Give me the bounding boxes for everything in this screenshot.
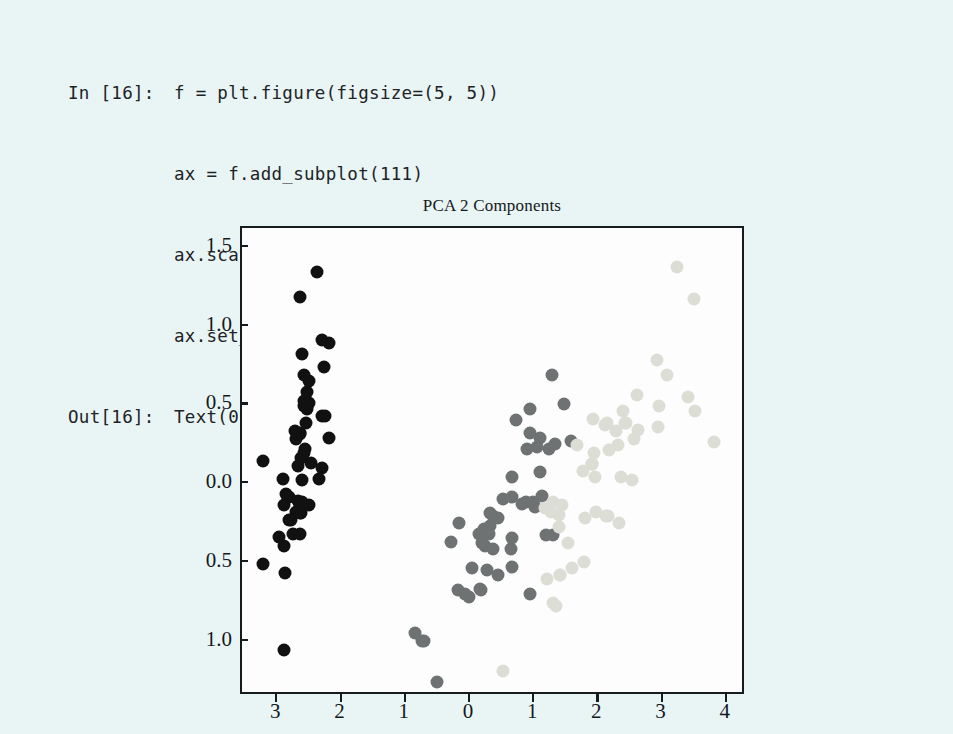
x-axis-tick-label: 4 — [700, 699, 750, 724]
scatter-point — [483, 507, 496, 520]
code-line-3: ax.scatter(X_pca[:,0], X_pca[:, 1], c=ir… — [68, 242, 716, 269]
scatter-point — [272, 530, 285, 543]
scatter-point — [472, 527, 485, 540]
scatter-point — [566, 562, 579, 575]
scatter-point — [578, 556, 591, 569]
scatter-point — [293, 507, 306, 520]
scatter-point — [292, 494, 305, 507]
x-axis-tick-label: 2 — [315, 699, 365, 724]
out-prompt: Out[16]: — [68, 404, 174, 431]
scatter-point — [475, 584, 488, 597]
scatter-point — [295, 507, 308, 520]
code-line-2: ax = f.add_subplot(111) — [68, 161, 716, 188]
scatter-point — [520, 496, 533, 509]
code-line-4: ax.set_title("PCA 2 Components") — [68, 323, 716, 350]
scatter-point — [524, 587, 537, 600]
x-axis-tick — [661, 694, 663, 702]
x-axis-tick-label: 1 — [379, 699, 429, 724]
code-line-1: In [16]:f = plt.figure(figsize=(5, 5)) — [68, 80, 716, 107]
scatter-point — [505, 491, 518, 504]
scatter-point — [282, 513, 295, 526]
scatter-point — [487, 543, 500, 556]
scatter-point — [549, 600, 562, 613]
scatter-point — [579, 511, 592, 524]
scatter-point — [554, 568, 567, 581]
scatter-point — [553, 521, 566, 534]
x-axis-tick — [404, 694, 406, 702]
scatter-point — [539, 502, 552, 515]
x-axis-tick-label: 3 — [636, 699, 686, 724]
output-text: Text(0.5, 1.0, 'PCA 2 Components') — [174, 407, 542, 427]
scatter-point — [506, 532, 519, 545]
scatter-point — [535, 489, 548, 502]
scatter-point — [547, 529, 560, 542]
scatter-point — [287, 527, 300, 540]
y-axis-tick-label: 0.5 — [172, 548, 232, 573]
scatter-point — [544, 505, 557, 518]
in-prompt: In [16]: — [68, 80, 174, 107]
scatter-point — [505, 560, 518, 573]
scatter-point — [466, 562, 479, 575]
scatter-point — [562, 537, 575, 550]
scatter-point — [444, 535, 457, 548]
scatter-point — [487, 510, 500, 523]
scatter-point — [278, 499, 291, 512]
y-axis-tick-label: 1.0 — [172, 626, 232, 651]
scatter-point — [408, 626, 421, 639]
scatter-point — [302, 499, 315, 512]
x-axis-tick-label: 1 — [507, 699, 557, 724]
scatter-point — [278, 644, 291, 657]
scatter-point — [600, 510, 613, 523]
scatter-point — [473, 582, 486, 595]
code-text-2[interactable]: ax = f.add_subplot(111) — [174, 164, 423, 184]
scatter-point — [546, 496, 559, 509]
scatter-point — [540, 573, 553, 586]
scatter-point — [295, 496, 308, 509]
scatter-point — [289, 505, 302, 518]
scatter-point — [480, 563, 493, 576]
x-axis-tick-label: 0 — [443, 699, 493, 724]
y-axis-tick — [240, 560, 248, 562]
x-axis-tick — [468, 694, 470, 702]
scatter-point — [285, 513, 298, 526]
scatter-point — [453, 516, 466, 529]
scatter-point — [496, 493, 509, 506]
x-axis-tick — [725, 694, 727, 702]
scatter-point — [547, 597, 560, 610]
notebook-page: In [16]:f = plt.figure(figsize=(5, 5)) a… — [0, 0, 953, 734]
scatter-point — [476, 537, 489, 550]
scatter-point — [590, 505, 603, 518]
scatter-point — [497, 664, 510, 677]
scatter-point — [431, 675, 444, 688]
x-axis-tick-label: 2 — [571, 699, 621, 724]
scatter-point — [529, 500, 542, 513]
scatter-point — [257, 557, 270, 570]
scatter-point — [601, 510, 614, 523]
y-axis-tick — [240, 639, 248, 641]
scatter-point — [459, 587, 472, 600]
scatter-point — [279, 567, 292, 580]
code-text-4[interactable]: ax.set_title("PCA 2 Components") — [174, 326, 521, 346]
scatter-point — [553, 508, 566, 521]
scatter-point — [505, 543, 518, 556]
scatter-point — [482, 527, 495, 540]
scatter-point — [492, 511, 505, 524]
scatter-point — [293, 527, 306, 540]
x-axis-tick-label: 3 — [250, 699, 300, 724]
scatter-point — [277, 540, 290, 553]
scatter-point — [554, 568, 567, 581]
x-axis-tick — [340, 694, 342, 702]
scatter-point — [417, 634, 430, 647]
x-axis-tick — [532, 694, 534, 702]
code-text-1[interactable]: f = plt.figure(figsize=(5, 5)) — [174, 83, 499, 103]
scatter-point — [484, 519, 497, 532]
scatter-point — [515, 497, 528, 510]
scatter-point — [463, 590, 476, 603]
code-text-3[interactable]: ax.scatter(X_pca[:,0], X_pca[:, 1], c=ir… — [174, 245, 716, 265]
scatter-point — [282, 491, 295, 504]
scatter-point — [415, 634, 428, 647]
scatter-point — [556, 499, 569, 512]
x-axis-tick — [596, 694, 598, 702]
scatter-point — [612, 516, 625, 529]
scatter-point — [491, 568, 504, 581]
